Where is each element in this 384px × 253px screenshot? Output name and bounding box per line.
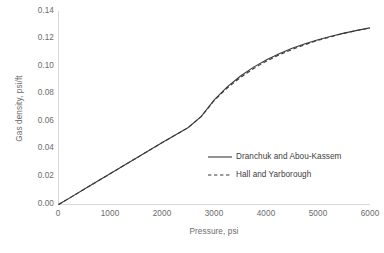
x-tick-label-6000: 6000 xyxy=(350,209,384,218)
y-tick-label-0-02: 0.02 xyxy=(24,171,54,180)
x-tick-label-1000: 1000 xyxy=(90,209,130,218)
x-tick-label-5000: 5000 xyxy=(298,209,338,218)
y-tick-label-0-00: 0.00 xyxy=(24,199,54,208)
y-tick-label-0-06: 0.06 xyxy=(24,116,54,125)
y-tick-label-0-14: 0.14 xyxy=(24,6,54,15)
legend-label-dranchuk-abou-kassem: Dranchuk and Abou-Kassem xyxy=(236,152,341,161)
x-axis-title: Pressure, psi xyxy=(58,227,370,236)
y-axis-title: Gas density, psi/ft xyxy=(15,54,24,164)
y-tick-label-0-04: 0.04 xyxy=(24,143,54,152)
y-tick-label-0-10: 0.10 xyxy=(24,61,54,70)
x-tick-label-0: 0 xyxy=(38,209,78,218)
x-tick-label-3000: 3000 xyxy=(194,209,234,218)
series-line-hall-yarborough xyxy=(59,28,371,205)
series-line-dranchuk-abou-kassem xyxy=(59,28,371,205)
y-tick-label-0-12: 0.12 xyxy=(24,33,54,42)
legend-label-hall-yarborough: Hall and Yarborough xyxy=(236,170,311,179)
y-tick-label-0-08: 0.08 xyxy=(24,88,54,97)
x-tick-label-4000: 4000 xyxy=(246,209,286,218)
x-tick-label-2000: 2000 xyxy=(142,209,182,218)
gas-density-chart: 0.14 0.12 0.10 0.08 0.06 0.04 0.02 0.00 … xyxy=(0,0,384,253)
